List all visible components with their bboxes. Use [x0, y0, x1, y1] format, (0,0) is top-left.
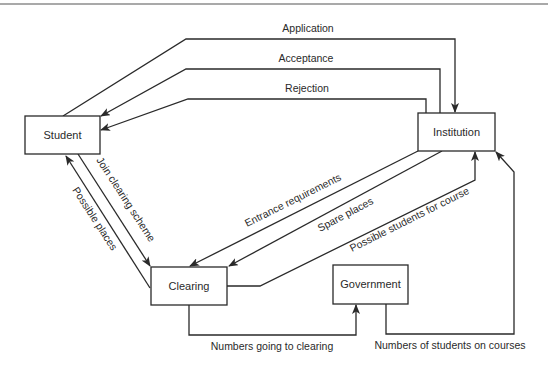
flow-numbers-courses: Numbers of students on courses	[374, 152, 525, 351]
flow-label-possible-places: Possible places	[70, 185, 120, 253]
node-institution: Institution	[418, 113, 495, 151]
flow-label-possible-students: Possible students for course	[348, 184, 472, 254]
node-label-institution: Institution	[433, 126, 480, 138]
flow-numbers-clearing: Numbers going to clearing	[189, 305, 356, 352]
flow-label-rejection: Rejection	[285, 82, 329, 94]
node-label-government: Government	[340, 278, 401, 290]
flow-acceptance: Acceptance	[101, 52, 440, 116]
flow-entrance-requirements: Entrance requirements	[190, 151, 418, 266]
flow-label-numbers-clearing: Numbers going to clearing	[211, 340, 334, 352]
node-label-clearing: Clearing	[169, 280, 210, 292]
node-label-student: Student	[44, 129, 82, 141]
flow-label-numbers-courses: Numbers of students on courses	[374, 339, 525, 351]
flow-label-application: Application	[282, 22, 334, 34]
node-government: Government	[333, 265, 408, 304]
node-clearing: Clearing	[151, 267, 227, 305]
flow-label-acceptance: Acceptance	[279, 52, 334, 64]
node-student: Student	[25, 116, 100, 154]
data-flow-diagram: Application Acceptance Rejection Join cl…	[0, 0, 548, 367]
